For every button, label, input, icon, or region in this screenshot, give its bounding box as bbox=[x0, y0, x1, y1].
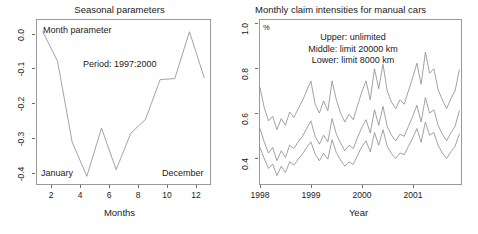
right-ytickmark-0 bbox=[255, 23, 258, 24]
figure-canvas: Seasonal parameters 0.0 -0.1 -0.2 -0.3 -… bbox=[0, 0, 478, 234]
left-annotation-january: January bbox=[41, 167, 73, 179]
right-ytick-3: 0.4 bbox=[240, 152, 250, 176]
left-ytickmark-2 bbox=[32, 103, 35, 104]
left-ytick-2: -0.2 bbox=[16, 92, 26, 116]
right-ytick-0: 1.0 bbox=[240, 17, 250, 41]
right-legend-item-lower: Lower: limit 8000 km bbox=[263, 55, 443, 67]
left-xtick-4: 10 bbox=[157, 190, 177, 200]
right-legend: Upper: unlimited Middle: limit 20000 km … bbox=[263, 32, 443, 67]
right-ytickmark-1 bbox=[255, 68, 258, 69]
left-ytick-4: -0.4 bbox=[16, 162, 26, 186]
left-xtick-2: 6 bbox=[99, 190, 119, 200]
right-xtick-1: 1999 bbox=[296, 190, 326, 200]
left-xtickmark-3 bbox=[138, 185, 139, 188]
right-xaxis-label: Year bbox=[239, 207, 478, 218]
left-ytick-0: 0.0 bbox=[16, 23, 26, 47]
right-ytick-2: 0.6 bbox=[240, 107, 250, 131]
left-ytickmark-3 bbox=[32, 138, 35, 139]
right-ytickmark-2 bbox=[255, 113, 258, 114]
left-ytickmark-1 bbox=[32, 68, 35, 69]
left-annotation-period: Period: 1997:2000 bbox=[83, 58, 157, 70]
left-xtick-5: 12 bbox=[186, 190, 206, 200]
right-xtickmark-3 bbox=[413, 185, 414, 188]
left-xtickmark-0 bbox=[51, 185, 52, 188]
left-ytick-3: -0.3 bbox=[16, 127, 26, 151]
left-xtickmark-2 bbox=[109, 185, 110, 188]
right-xtickmark-1 bbox=[311, 185, 312, 188]
left-plot-area bbox=[36, 19, 211, 185]
right-xtick-3: 2001 bbox=[398, 190, 428, 200]
left-series-line bbox=[37, 20, 210, 184]
right-xtickmark-2 bbox=[362, 185, 363, 188]
left-xtick-1: 4 bbox=[70, 190, 90, 200]
right-ytick-1: 0.8 bbox=[240, 62, 250, 86]
right-chart-panel: Monthly claim intensities for manual car… bbox=[239, 0, 478, 234]
left-ytickmark-0 bbox=[32, 34, 35, 35]
left-annotation-month-parameter: Month parameter bbox=[43, 24, 112, 36]
right-xtick-0: 1998 bbox=[245, 190, 275, 200]
right-legend-item-upper: Upper: unlimited bbox=[263, 32, 443, 44]
left-xtickmark-5 bbox=[196, 185, 197, 188]
right-xtickmark-0 bbox=[260, 185, 261, 188]
left-ytickmark-4 bbox=[32, 173, 35, 174]
left-xtickmark-4 bbox=[167, 185, 168, 188]
left-xaxis-label: Months bbox=[0, 207, 239, 218]
right-legend-item-middle: Middle: limit 20000 km bbox=[263, 44, 443, 56]
right-xtick-2: 2000 bbox=[347, 190, 377, 200]
left-xtickmark-1 bbox=[80, 185, 81, 188]
right-chart-title: Monthly claim intensities for manual car… bbox=[255, 4, 426, 16]
left-xtick-3: 8 bbox=[128, 190, 148, 200]
left-chart-title: Seasonal parameters bbox=[0, 4, 239, 16]
left-chart-panel: Seasonal parameters 0.0 -0.1 -0.2 -0.3 -… bbox=[0, 0, 239, 234]
left-annotation-december: December bbox=[162, 167, 204, 179]
right-ytickmark-3 bbox=[255, 158, 258, 159]
left-ytick-1: -0.1 bbox=[16, 57, 26, 81]
left-xtick-0: 2 bbox=[41, 190, 61, 200]
